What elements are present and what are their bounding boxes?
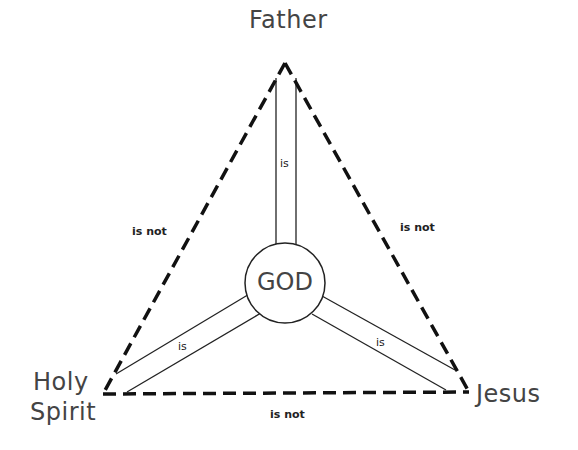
edge-left-dashed [103, 63, 285, 394]
vertex-label-jesus: Jesus [476, 380, 541, 408]
vertex-label-spirit: Spirit [30, 398, 96, 426]
spoke-right-lower-line [312, 314, 446, 390]
spoke-label-right: is [376, 336, 385, 349]
edge-label-right: is not [400, 221, 435, 234]
edge-label-bottom: is not [270, 408, 305, 421]
vertex-label-father: Father [249, 6, 328, 34]
center-label-god: GOD [245, 268, 325, 296]
vertex-label-holy: Holy [33, 368, 89, 396]
edge-bottom-dashed [103, 392, 469, 394]
edge-label-left: is not [132, 225, 167, 238]
spoke-label-top: is [280, 157, 289, 170]
spoke-left-lower-line [127, 313, 261, 392]
spoke-label-left: is [178, 340, 187, 353]
spokes [116, 78, 455, 392]
